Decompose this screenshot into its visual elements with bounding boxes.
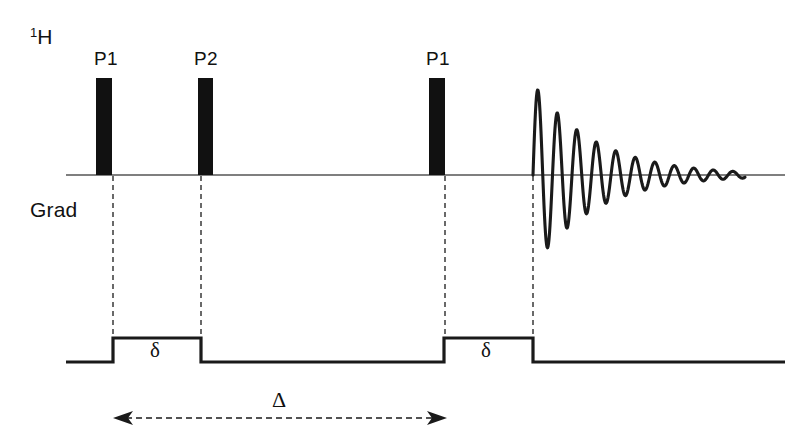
channel-label-proton: 1H	[30, 26, 53, 47]
gradient-duration-label-1: δ	[150, 340, 160, 361]
gradient-duration-label-2: δ	[481, 340, 491, 361]
pulse-sequence-canvas	[0, 0, 810, 441]
rf-pulse-p2	[198, 78, 213, 175]
rf-pulse-p1-second	[429, 78, 445, 175]
channel-label-gradient: Grad	[30, 199, 78, 220]
rf-pulse-p1-first	[96, 78, 112, 175]
fid-waveform	[533, 90, 745, 248]
pulse-sequence-figure: 1H Grad P1 P2 P1 δ δ Δ	[0, 0, 810, 441]
pulse-label-p1-second: P1	[426, 49, 450, 68]
proton-symbol: H	[37, 25, 52, 48]
pulse-label-p1-first: P1	[94, 49, 118, 68]
pulse-label-p2: P2	[194, 49, 218, 68]
gradient-waveform	[66, 338, 785, 362]
diffusion-interval-label: Δ	[272, 389, 286, 411]
